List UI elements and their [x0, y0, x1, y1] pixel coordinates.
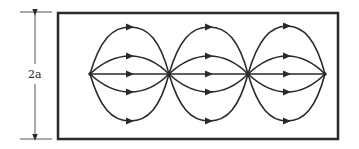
arrow-right-icon [205, 24, 213, 31]
field-line-inner-bottom [90, 74, 169, 92]
field-line-outer-bottom [90, 74, 169, 121]
node [88, 72, 92, 76]
node [246, 72, 250, 76]
arrow-right-icon [205, 118, 213, 125]
arrow-right-icon [126, 118, 134, 125]
field-line-inner-bottom [248, 74, 325, 92]
arrow-right-icon [283, 71, 291, 78]
node [323, 72, 327, 76]
field-line-outer-top [248, 26, 325, 74]
arrow-right-icon [126, 71, 134, 78]
field-line-outer-bottom [169, 74, 248, 121]
node [167, 72, 171, 76]
field-line-inner-top [169, 56, 248, 74]
field-line-outer-top [90, 27, 169, 74]
field-line-inner-top [90, 56, 169, 74]
field-line-diagram: 2a [0, 0, 359, 149]
arrow-right-icon [126, 53, 134, 60]
dimension-label: 2a [28, 68, 42, 81]
field-line-inner-bottom [169, 74, 248, 92]
arrow-right-icon [205, 71, 213, 78]
field-line-outer-bottom [248, 74, 325, 121]
arrow-right-icon [205, 89, 213, 96]
arrow-right-icon [205, 53, 213, 60]
arrow-right-icon [283, 53, 291, 60]
arrow-right-icon [283, 118, 291, 125]
field-line-outer-top [169, 27, 248, 74]
field-line-inner-top [248, 56, 325, 74]
arrow-right-icon [126, 89, 134, 96]
arrow-right-icon [283, 89, 291, 96]
arrow-right-icon [283, 23, 291, 30]
arrow-right-icon [126, 24, 134, 31]
